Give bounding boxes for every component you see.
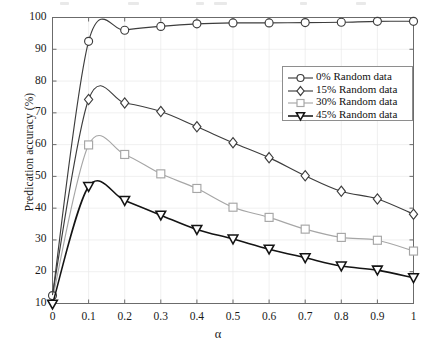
y-tick-label: 20 [7, 264, 47, 276]
chart-legend: 0% Random data15% Random data30% Random … [282, 66, 413, 121]
y-axis-label: Predication accuracy (%) [23, 62, 35, 242]
legend-item-label: 45% Random data [314, 108, 397, 120]
y-tick-label: 70 [7, 105, 47, 117]
legend-item: 15% Random data [287, 83, 408, 96]
triangle-down-marker-icon [287, 108, 314, 120]
figure-root: Predication accuracy (%) α 1020304050607… [0, 0, 436, 357]
y-tick-label: 50 [7, 169, 47, 181]
legend-item: 45% Random data [287, 108, 408, 121]
y-tick-label: 40 [7, 201, 47, 213]
y-tick-label: 30 [7, 232, 47, 244]
series-2 [53, 135, 418, 298]
x-axis-label: α [0, 327, 436, 342]
line-chart: Predication accuracy (%) α 1020304050607… [0, 0, 436, 357]
gridlines [53, 18, 414, 304]
legend-item-label: 30% Random data [314, 95, 397, 107]
legend-item: 30% Random data [287, 95, 408, 108]
y-tick-label: 60 [7, 137, 47, 149]
chart-canvas [0, 0, 436, 357]
y-tick-label: 100 [7, 10, 47, 22]
diamond-marker-icon [287, 83, 314, 95]
legend-item: 0% Random data [287, 70, 408, 83]
legend-item-label: 0% Random data [314, 70, 392, 82]
y-tick-label: 10 [7, 296, 47, 308]
circle-marker-icon [287, 70, 314, 82]
square-marker-icon [287, 95, 314, 107]
legend-item-label: 15% Random data [314, 83, 397, 95]
y-tick-label: 90 [7, 42, 47, 54]
x-tick-label: 1 [392, 310, 436, 322]
y-tick-label: 80 [7, 74, 47, 86]
